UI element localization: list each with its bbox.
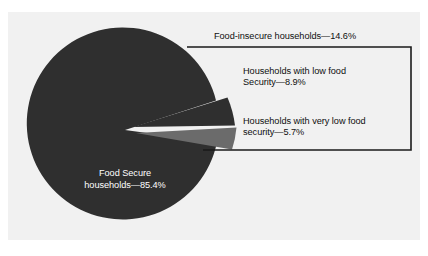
label-low-food-security: Households with low food Security—8.9% — [243, 66, 346, 89]
label-food-secure: Food Secure households—85.4% — [51, 168, 199, 191]
label-very-low-food-security: Households with very low food security—5… — [243, 116, 366, 139]
pie-chart-figure: Food-insecure households—14.6% Household… — [0, 0, 428, 256]
label-food-insecure-group: Food-insecure households—14.6% — [214, 31, 356, 42]
